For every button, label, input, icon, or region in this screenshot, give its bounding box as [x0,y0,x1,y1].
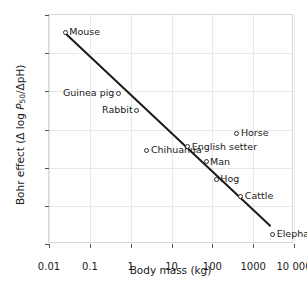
y-tick-mark [45,91,49,92]
y-axis-label: Bohr effect (Δ log P50/ΔpH) [14,20,28,249]
y-axis-label-prefix: Bohr effect (Δ log [14,110,26,205]
data-point-label: Elephant [277,230,307,240]
y-tick-mark [45,15,49,16]
data-point-label: Hog [220,174,239,184]
data-point-label: Horse [241,129,269,139]
y-axis-label-suffix: /ΔpH) [14,65,26,94]
data-point-label: Cattle [245,192,273,202]
bohr-effect-scatter-chart: 0.010.1110100100010 000−1.0−0.9−0.8−0.7−… [0,0,307,285]
gridline-vertical [294,15,295,242]
y-axis-label-italic: P [14,103,26,109]
y-tick-mark [45,168,49,169]
data-point-label: Man [210,157,230,167]
x-tick-mark [172,244,173,248]
x-tick-mark [131,244,132,248]
data-point-label: Guinea pig [63,88,114,98]
data-point-marker [214,177,219,182]
x-axis-label: Body mass (kg) [48,264,293,276]
x-tick-mark [90,244,91,248]
data-point-label: Rabbit [102,106,133,116]
x-tick-mark [212,244,213,248]
y-tick-mark [45,206,49,207]
data-point-label: Mouse [69,27,100,37]
y-tick-mark [45,130,49,131]
y-axis-label-subscript: 50 [18,94,27,104]
x-tick-mark [294,244,295,248]
data-point-label: English setter [192,142,257,152]
plot-area: 0.010.1110100100010 000−1.0−0.9−0.8−0.7−… [48,14,293,243]
y-tick-mark [45,244,49,245]
y-tick-mark [45,53,49,54]
x-tick-mark [49,244,50,248]
data-point-marker [63,30,68,35]
x-tick-mark [253,244,254,248]
data-point-marker [116,91,121,96]
